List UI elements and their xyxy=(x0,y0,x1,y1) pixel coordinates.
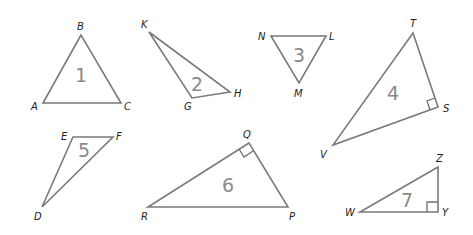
triangle-1: B A C 1 xyxy=(30,21,131,112)
triangle-7: Z W Y 7 xyxy=(345,153,449,218)
right-angle-marker-q xyxy=(239,149,253,157)
vertex-label-s: S xyxy=(443,103,450,114)
triangle-2-shape xyxy=(149,32,230,98)
triangle-6: Q R P 6 xyxy=(141,129,296,222)
vertex-label-d: D xyxy=(34,211,42,222)
triangle-6-shape xyxy=(148,143,288,207)
vertex-label-c: C xyxy=(124,101,131,112)
triangle-number-4: 4 xyxy=(387,82,399,104)
triangle-number-1: 1 xyxy=(75,64,87,86)
triangle-4-shape xyxy=(333,33,438,145)
triangle-number-5: 5 xyxy=(78,139,90,161)
vertex-label-m: M xyxy=(294,88,303,99)
triangle-2: K G H 2 xyxy=(141,19,242,112)
vertex-label-v: V xyxy=(320,149,328,160)
triangle-4: T S V 4 xyxy=(320,18,450,160)
triangle-7-shape xyxy=(360,167,438,212)
vertex-label-e: E xyxy=(61,131,68,142)
vertex-label-y: Y xyxy=(442,207,449,218)
triangle-number-2: 2 xyxy=(191,73,203,95)
vertex-label-p: P xyxy=(289,211,296,222)
triangle-number-7: 7 xyxy=(401,189,413,211)
vertex-label-w: W xyxy=(345,207,356,218)
vertex-label-q: Q xyxy=(243,129,251,140)
vertex-label-r: R xyxy=(141,211,148,222)
vertex-label-l: L xyxy=(329,31,335,42)
vertex-label-n: N xyxy=(258,31,266,42)
vertex-label-a: A xyxy=(30,101,38,112)
vertex-label-b: B xyxy=(77,21,84,32)
triangle-number-3: 3 xyxy=(293,44,305,66)
vertex-label-t: T xyxy=(410,18,417,29)
vertex-label-z: Z xyxy=(435,153,444,164)
triangle-3: N L M 3 xyxy=(258,31,335,99)
right-angle-marker-y xyxy=(427,202,438,212)
vertex-label-k: K xyxy=(141,19,149,30)
triangle-5: E F D 5 xyxy=(34,131,122,222)
vertex-label-f: F xyxy=(116,131,122,142)
vertex-label-g: G xyxy=(184,101,192,112)
triangle-number-6: 6 xyxy=(222,174,234,196)
vertex-label-h: H xyxy=(234,88,242,99)
triangles-diagram: B A C 1 K G H 2 N L M 3 T S V 4 E F D 5 xyxy=(0,0,473,235)
